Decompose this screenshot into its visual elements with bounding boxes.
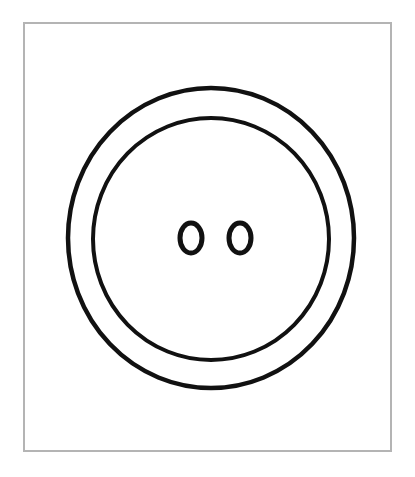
button-illustration <box>0 0 415 477</box>
button-inner-rim <box>93 118 329 360</box>
button-hole-right <box>229 223 251 253</box>
button-hole-left <box>180 223 202 253</box>
button-outer-rim <box>68 88 354 388</box>
button-icon <box>68 88 354 388</box>
